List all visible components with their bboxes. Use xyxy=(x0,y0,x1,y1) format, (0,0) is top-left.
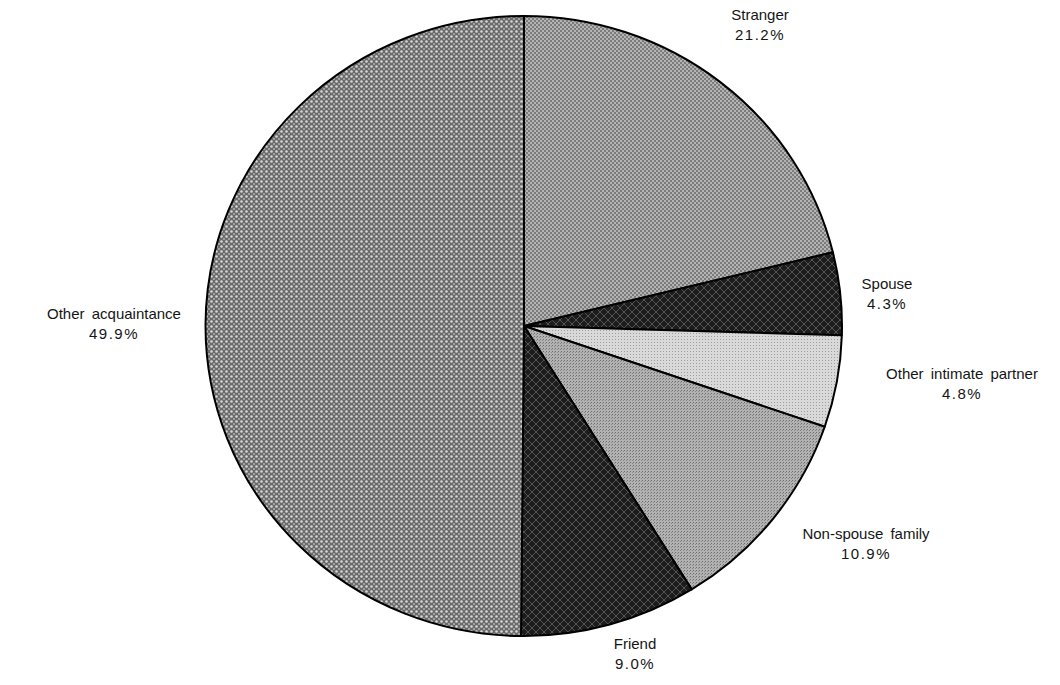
slice-label-name: Other acquaintance xyxy=(47,304,181,324)
slice-label-percent: 4.3% xyxy=(862,294,913,314)
label-non-spouse-family: Non-spouse family 10.9% xyxy=(802,524,929,564)
slice-label-name: Non-spouse family xyxy=(802,524,929,544)
slice-label-percent: 10.9% xyxy=(802,544,929,564)
label-stranger: Stranger 21.2% xyxy=(731,5,789,45)
slice-label-name: Spouse xyxy=(862,274,913,294)
pie-slice-other-acquaintance xyxy=(206,16,524,636)
label-spouse: Spouse 4.3% xyxy=(862,274,913,314)
slice-label-percent: 9.0% xyxy=(614,654,657,674)
pie-slices xyxy=(206,16,842,636)
slice-label-name: Friend xyxy=(614,634,657,654)
slice-label-percent: 4.8% xyxy=(886,384,1038,404)
slice-label-name: Other intimate partner xyxy=(886,364,1038,384)
label-friend: Friend 9.0% xyxy=(614,634,657,674)
label-other-intimate-partner: Other intimate partner 4.8% xyxy=(886,364,1038,404)
slice-label-name: Stranger xyxy=(731,5,789,25)
slice-label-percent: 49.9% xyxy=(47,324,181,344)
slice-label-percent: 21.2% xyxy=(731,25,789,45)
label-other-acquaintance: Other acquaintance 49.9% xyxy=(47,304,181,344)
